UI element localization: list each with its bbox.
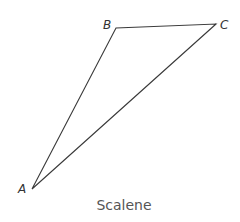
vertex-label-b: B [103,18,111,32]
scalene-triangle [32,24,216,189]
vertex-label-c: C [220,18,229,32]
triangle-diagram: A B C [0,0,240,222]
vertex-label-a: A [17,182,26,196]
triangle-caption: Scalene [0,197,240,213]
